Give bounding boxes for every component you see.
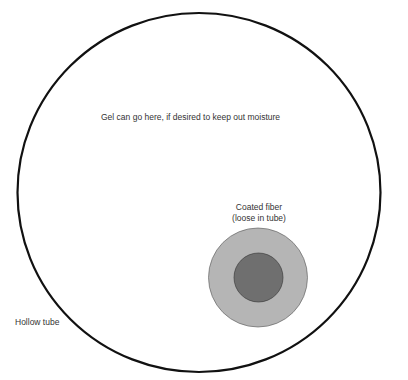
hollow-tube-circle	[18, 13, 381, 372]
fiber-label: Coated fiber (loose in tube)	[224, 202, 294, 224]
diagram-canvas	[0, 0, 408, 380]
gel-label: Gel can go here, if desired to keep out …	[101, 112, 280, 123]
fiber-core-circle	[234, 253, 283, 302]
hollow-tube-label: Hollow tube	[15, 317, 59, 328]
fiber-label-line2: (loose in tube)	[224, 213, 294, 224]
fiber-label-line1: Coated fiber	[224, 202, 294, 213]
